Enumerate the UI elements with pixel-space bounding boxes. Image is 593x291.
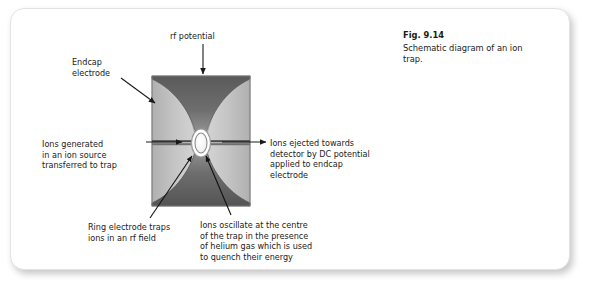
- endcap-electrode-label: Endcap electrode: [72, 57, 144, 78]
- ions-generated-label: Ions generated in an ion source transfer…: [42, 139, 150, 171]
- figure-screenshot: rf potential Endcap electrode Ions gener…: [0, 0, 593, 291]
- figure-caption-text: Schematic diagram of an ion trap.: [403, 43, 543, 66]
- rf-potential-label: rf potential: [170, 31, 260, 42]
- figure-caption: Fig. 9.14 Schematic diagram of an ion tr…: [403, 30, 543, 66]
- ring-electrode-label: Ring electrode traps ions in an rf field: [88, 222, 198, 243]
- ions-oscillate-label: Ions oscillate at the centre of the trap…: [200, 220, 330, 262]
- figure-caption-number: Fig. 9.14: [403, 30, 543, 42]
- ions-ejected-label: Ions ejected towards detector by DC pote…: [270, 138, 382, 180]
